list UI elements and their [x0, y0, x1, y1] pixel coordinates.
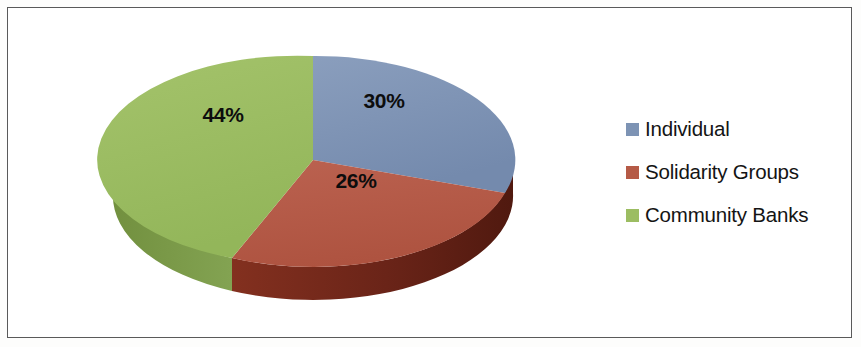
- chart-legend: Individual Solidarity Groups Community B…: [626, 108, 851, 237]
- legend-swatch-community-banks: [626, 209, 639, 222]
- pie-chart: 30% 26% 44% Individual Solidarity Groups…: [0, 0, 861, 347]
- legend-item-solidarity-groups[interactable]: Solidarity Groups: [626, 151, 851, 194]
- pie-label-community-banks: 44%: [202, 103, 243, 127]
- legend-swatch-individual: [626, 123, 639, 136]
- legend-label-community-banks: Community Banks: [645, 205, 808, 226]
- legend-swatch-solidarity-groups: [626, 166, 639, 179]
- legend-label-solidarity-groups: Solidarity Groups: [645, 162, 799, 183]
- pie-chart-svg: [95, 18, 535, 318]
- pie-label-solidarity-groups: 26%: [335, 169, 376, 193]
- pie-label-individual: 30%: [363, 89, 404, 113]
- legend-item-community-banks[interactable]: Community Banks: [626, 194, 851, 237]
- figure-page: 30% 26% 44% Individual Solidarity Groups…: [0, 0, 861, 347]
- legend-item-individual[interactable]: Individual: [626, 108, 851, 151]
- legend-label-individual: Individual: [645, 119, 730, 140]
